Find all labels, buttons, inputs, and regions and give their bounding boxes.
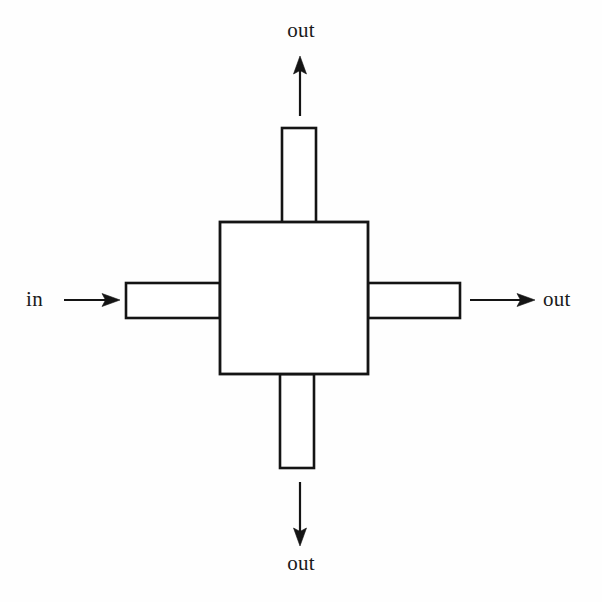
cross-junction-diagram <box>0 0 602 602</box>
arrow-out-right <box>470 294 535 307</box>
arrow-out-top <box>294 56 307 116</box>
central-square-block <box>220 222 368 374</box>
left-arm <box>126 283 220 318</box>
label-out-top: out <box>0 20 602 41</box>
arrow-out-bottom <box>294 482 307 546</box>
top-arm <box>282 128 316 228</box>
right-arm <box>368 283 460 318</box>
arrow-in-left <box>64 294 120 307</box>
label-in-left: in <box>26 289 43 310</box>
label-out-bottom: out <box>0 553 602 574</box>
diagram-page: out out out in <box>0 0 602 602</box>
bottom-arm <box>280 374 314 468</box>
label-out-right: out <box>543 289 571 310</box>
